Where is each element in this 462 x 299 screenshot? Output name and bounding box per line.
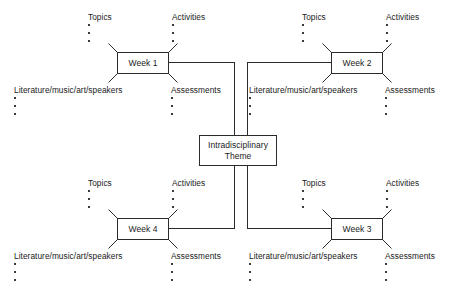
bullet bbox=[249, 97, 251, 99]
flare-week3-bottomleft bbox=[323, 240, 332, 249]
week-1-activities-bullets bbox=[172, 24, 205, 42]
week-1-literature-label: Literature/music/art/speakers bbox=[14, 86, 122, 94]
bullet bbox=[171, 279, 173, 281]
bullet bbox=[385, 279, 387, 281]
center-node-label: Intradisciplinary Theme bbox=[208, 140, 268, 161]
bullet bbox=[386, 190, 388, 192]
week-3-topics-label: Topics bbox=[302, 179, 326, 187]
week-1-branch-activities: Activities bbox=[172, 13, 205, 42]
week-1-topics-bullets bbox=[88, 24, 112, 42]
bullet bbox=[249, 279, 251, 281]
bullet bbox=[172, 198, 174, 200]
week-4-activities-bullets bbox=[172, 190, 205, 208]
bullet bbox=[14, 113, 16, 115]
bullet bbox=[302, 40, 304, 42]
week-4-assessments-label: Assessments bbox=[171, 252, 221, 260]
bullet bbox=[302, 24, 304, 26]
week-1-assessments-bullets bbox=[171, 97, 221, 115]
week-4-topics-label: Topics bbox=[88, 179, 112, 187]
bullet bbox=[386, 198, 388, 200]
bullet bbox=[249, 263, 251, 265]
week-3-activities-bullets bbox=[386, 190, 419, 208]
week-4-topics-bullets bbox=[88, 190, 112, 208]
flare-week4-bottomleft bbox=[109, 240, 118, 249]
center-node-label-line2: Theme bbox=[225, 151, 252, 161]
week-1-branch-literature: Literature/music/art/speakers bbox=[14, 86, 122, 115]
bullet bbox=[172, 206, 174, 208]
flare-week4-bottomright bbox=[169, 240, 178, 249]
week-2-activities-label: Activities bbox=[386, 13, 419, 21]
bullet bbox=[14, 97, 16, 99]
week-1-topics-label: Topics bbox=[88, 13, 112, 21]
flare-week2-bottomright bbox=[383, 74, 392, 83]
bullet bbox=[385, 263, 387, 265]
bullet bbox=[14, 105, 16, 107]
week-3-branch-assessments: Assessments bbox=[385, 252, 435, 281]
bullet bbox=[172, 190, 174, 192]
bullet bbox=[14, 263, 16, 265]
week-3-literature-bullets bbox=[249, 263, 357, 281]
week-4-label: Week 4 bbox=[129, 224, 158, 234]
week-1-node[interactable]: Week 1 bbox=[117, 52, 169, 74]
bullet bbox=[14, 279, 16, 281]
week-4-branch-literature: Literature/music/art/speakers bbox=[14, 252, 122, 281]
bullet bbox=[172, 40, 174, 42]
bullet bbox=[249, 113, 251, 115]
bullet bbox=[385, 271, 387, 273]
flare-week1-topright bbox=[169, 44, 178, 53]
week-1-label: Week 1 bbox=[129, 58, 158, 68]
week-2-node[interactable]: Week 2 bbox=[331, 52, 383, 74]
diagram-canvas: Intradisciplinary Theme Week 1 Topics Ac… bbox=[0, 0, 462, 299]
week-3-assessments-label: Assessments bbox=[385, 252, 435, 260]
week-1-literature-bullets bbox=[14, 97, 122, 115]
bullet bbox=[171, 271, 173, 273]
week-2-assessments-label: Assessments bbox=[385, 86, 435, 94]
week-4-branch-activities: Activities bbox=[172, 179, 205, 208]
flare-week4-topright bbox=[169, 210, 178, 219]
week-3-activities-label: Activities bbox=[386, 179, 419, 187]
bullet bbox=[171, 113, 173, 115]
bullet bbox=[249, 271, 251, 273]
week-1-activities-label: Activities bbox=[172, 13, 205, 21]
week-2-topics-label: Topics bbox=[302, 13, 326, 21]
bullet bbox=[88, 32, 90, 34]
week-3-literature-label: Literature/music/art/speakers bbox=[249, 252, 357, 260]
bullet bbox=[386, 206, 388, 208]
bullet bbox=[302, 206, 304, 208]
bullet bbox=[385, 105, 387, 107]
bullet bbox=[171, 263, 173, 265]
flare-week1-bottomright bbox=[169, 74, 178, 83]
week-4-literature-label: Literature/music/art/speakers bbox=[14, 252, 122, 260]
bullet bbox=[88, 198, 90, 200]
week-4-node[interactable]: Week 4 bbox=[117, 218, 169, 240]
bullet bbox=[302, 190, 304, 192]
week-2-literature-label: Literature/music/art/speakers bbox=[249, 86, 357, 94]
bullet bbox=[386, 24, 388, 26]
week-4-branch-assessments: Assessments bbox=[171, 252, 221, 281]
center-node-label-line1: Intradisciplinary bbox=[208, 140, 268, 150]
week-3-branch-topics: Topics bbox=[302, 179, 326, 208]
week-2-label: Week 2 bbox=[343, 58, 372, 68]
week-2-topics-bullets bbox=[302, 24, 326, 42]
center-node-intradisciplinary-theme[interactable]: Intradisciplinary Theme bbox=[199, 135, 277, 166]
week-2-branch-literature: Literature/music/art/speakers bbox=[249, 86, 357, 115]
bullet bbox=[386, 32, 388, 34]
week-3-assessments-bullets bbox=[385, 263, 435, 281]
week-4-activities-label: Activities bbox=[172, 179, 205, 187]
bullet bbox=[249, 105, 251, 107]
week-4-branch-topics: Topics bbox=[88, 179, 112, 208]
week-4-assessments-bullets bbox=[171, 263, 221, 281]
week-2-assessments-bullets bbox=[385, 97, 435, 115]
week-1-assessments-label: Assessments bbox=[171, 86, 221, 94]
bullet bbox=[88, 206, 90, 208]
week-2-branch-topics: Topics bbox=[302, 13, 326, 42]
bullet bbox=[302, 32, 304, 34]
flare-week2-bottomleft bbox=[323, 74, 332, 83]
flare-week3-bottomright bbox=[383, 240, 392, 249]
week-3-branch-literature: Literature/music/art/speakers bbox=[249, 252, 357, 281]
bullet bbox=[14, 271, 16, 273]
week-3-topics-bullets bbox=[302, 190, 326, 208]
week-3-node[interactable]: Week 3 bbox=[331, 218, 383, 240]
bullet bbox=[302, 198, 304, 200]
bullet bbox=[172, 24, 174, 26]
